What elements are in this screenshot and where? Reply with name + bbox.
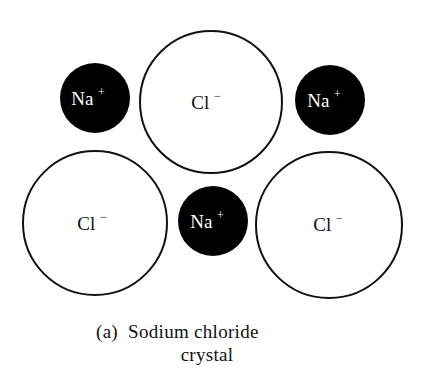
ion-symbol: Cl [77, 213, 95, 234]
ion-charge: + [98, 85, 105, 99]
ion-cl-top-center: Cl − [140, 31, 282, 173]
ion-charge: − [214, 89, 221, 103]
ion-cl-bottom-left: Cl − [23, 151, 167, 295]
ion-na-top-right: Na + [295, 65, 365, 135]
caption-line-1: (a) Sodium chloride [96, 321, 259, 343]
ion-symbol: Na [71, 88, 94, 109]
ion-na-bottom-center: Na + [178, 186, 248, 256]
ion-na-top-left: Na + [60, 63, 130, 133]
ion-symbol: Cl [191, 92, 209, 113]
ion-charge: + [217, 208, 224, 222]
ion-symbol: Na [307, 90, 330, 111]
caption-line-2: crystal [181, 344, 234, 365]
ion-cl-bottom-right: Cl − [256, 152, 402, 298]
sodium-chloride-diagram: Na + Cl − Na + Cl − Na + Cl [0, 0, 433, 390]
ion-charge: − [336, 211, 343, 225]
ion-symbol: Cl [313, 214, 331, 235]
ion-charge: − [100, 210, 107, 224]
ion-charge: + [334, 87, 341, 101]
ion-symbol: Na [190, 211, 213, 232]
